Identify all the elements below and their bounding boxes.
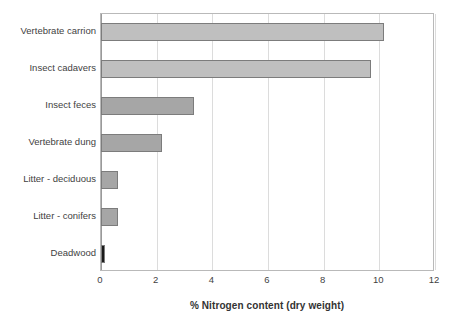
x-tick-label: 8 bbox=[320, 274, 325, 286]
gridline bbox=[435, 14, 436, 270]
category-label: Vertebrate dung bbox=[0, 137, 96, 147]
bar bbox=[101, 60, 371, 78]
category-axis-labels: Vertebrate carrionInsect cadaversInsect … bbox=[0, 13, 96, 271]
category-label: Insect cadavers bbox=[0, 63, 96, 73]
category-label: Litter - deciduous bbox=[0, 174, 96, 184]
category-label: Vertebrate carrion bbox=[0, 26, 96, 36]
x-tick-label: 10 bbox=[373, 274, 384, 286]
bar bbox=[101, 208, 118, 226]
bar bbox=[101, 245, 105, 263]
bar bbox=[101, 171, 118, 189]
bar bbox=[101, 23, 384, 41]
bars-layer bbox=[101, 14, 433, 270]
x-tick-label: 4 bbox=[209, 274, 214, 286]
category-label: Litter - conifers bbox=[0, 211, 96, 221]
bar bbox=[101, 97, 194, 115]
x-tick-label: 12 bbox=[429, 274, 440, 286]
x-tick-label: 6 bbox=[264, 274, 269, 286]
plot-area bbox=[100, 13, 434, 271]
bar bbox=[101, 134, 162, 152]
x-tick-label: 0 bbox=[97, 274, 102, 286]
x-axis-title: % Nitrogen content (dry weight) bbox=[100, 300, 434, 311]
category-label: Deadwood bbox=[0, 248, 96, 258]
category-label: Insect feces bbox=[0, 100, 96, 110]
x-tick-label: 2 bbox=[153, 274, 158, 286]
nitrogen-content-bar-chart: Vertebrate carrionInsect cadaversInsect … bbox=[0, 0, 450, 331]
x-axis-tick-labels: 024681012 bbox=[100, 274, 434, 288]
